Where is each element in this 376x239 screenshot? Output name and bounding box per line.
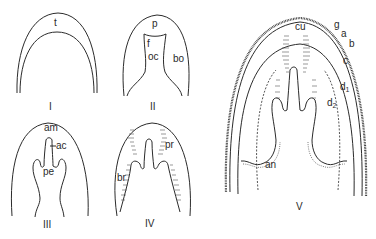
panel-iv-outer-contour [115,123,191,216]
label-t: t [54,17,57,28]
panel-v: cu g a b c d1 d2 an V [226,18,366,212]
panel-v-layer-c [238,44,354,196]
label-am: am [44,122,58,133]
panel-iv: pr br IV [115,123,191,229]
panel-ii-numeral: II [150,101,156,112]
panel-i-outer-curve [17,13,97,93]
panel-v-hatching [275,36,317,98]
panel-i-inner-curve [20,32,94,93]
panel-iv-numeral: IV [145,218,155,229]
label-ac: ac [56,140,67,151]
label-p: p [152,18,158,29]
label-bo: bo [173,53,185,64]
panel-iii-numeral: III [43,219,51,230]
label-d2: d2 [327,97,337,109]
panel-i-numeral: I [49,101,52,112]
label-cu: cu [295,21,306,32]
panel-v-numeral: V [296,201,303,212]
label-d1: d1 [340,81,350,93]
label-g: g [334,19,340,30]
label-c: c [343,55,348,66]
developmental-stages-diagram: t I p f oc bo II am ac pe III pr br IV [0,0,376,239]
label-b: b [349,38,355,49]
panel-ii: p f oc bo II [123,15,189,112]
panel-ii-optic-cup-contour [127,34,182,96]
label-an: an [265,159,276,170]
label-pr: pr [165,139,175,150]
label-f: f [147,38,150,49]
panel-iii: am ac pe III [11,122,88,230]
label-pe: pe [43,166,55,177]
panel-i: t I [17,13,97,112]
label-br: br [117,172,127,183]
label-a: a [341,28,347,39]
label-oc: oc [148,51,159,62]
